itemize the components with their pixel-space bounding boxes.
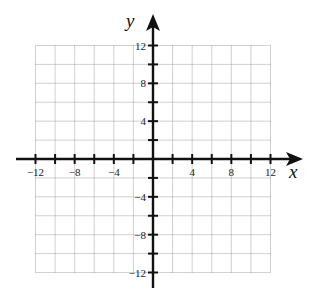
y-tick-label: 8 [141,77,147,89]
x-tick-label: 4 [189,166,195,178]
coordinate-plane: −12−8−448121284−4−8−12 x y [0,0,320,297]
y-axis-label: y [124,10,135,31]
x-tick-label: 12 [265,166,276,178]
axes [16,14,303,288]
x-tick-label: −8 [69,166,81,178]
y-tick-label: −12 [129,267,146,279]
x-axis-label: x [288,161,298,182]
x-tick-label: −12 [27,166,44,178]
x-tick-label: −4 [108,166,120,178]
x-tick-label: 8 [229,166,235,178]
y-tick-label: 4 [141,115,147,127]
y-tick-label: 12 [135,40,146,52]
y-tick-label: −8 [134,229,146,241]
y-tick-label: −4 [134,191,146,203]
